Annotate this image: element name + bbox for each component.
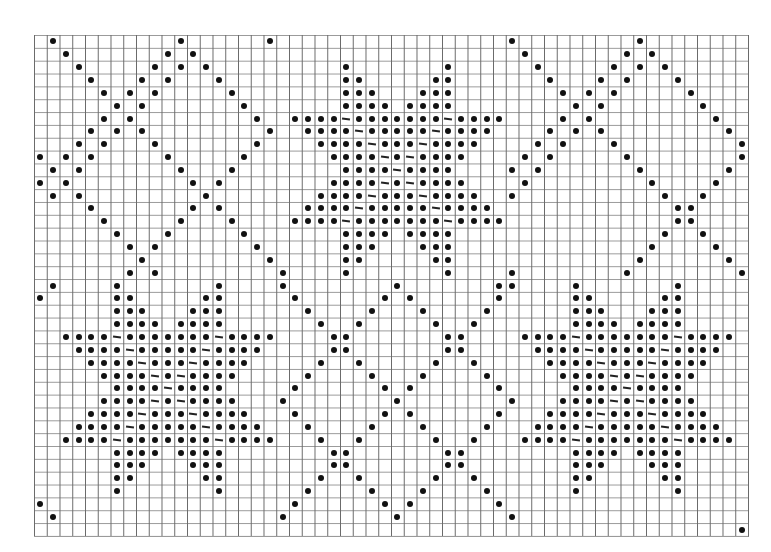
star-dot-icon (611, 437, 617, 443)
star-dot-icon (700, 437, 706, 443)
star-dot-icon (343, 257, 349, 263)
star-dot-icon (573, 283, 579, 289)
star-dot-icon (203, 295, 209, 301)
lattice-dot-icon (509, 514, 515, 520)
star-dash-icon (393, 168, 401, 171)
star-dot-icon (547, 334, 553, 340)
star-dash-icon (572, 438, 580, 441)
lattice-dot-icon (101, 218, 107, 224)
lattice-dot-icon (484, 488, 490, 494)
lattice-dot-icon (560, 141, 566, 147)
star-dot-icon (318, 205, 324, 211)
lattice-dot-icon (547, 77, 553, 83)
star-dot-icon (535, 424, 541, 430)
lattice-dot-icon (343, 450, 349, 456)
lattice-dot-icon (369, 308, 375, 314)
star-dot-icon (662, 308, 668, 314)
lattice-dot-icon (369, 488, 375, 494)
star-dot-icon (649, 334, 655, 340)
lattice-dot-icon (165, 77, 171, 83)
star-dot-icon (484, 116, 490, 122)
star-dot-icon (649, 308, 655, 314)
star-dot-icon (675, 360, 681, 366)
star-dot-icon (216, 424, 222, 430)
star-dot-icon (114, 347, 120, 353)
lattice-dot-icon (649, 180, 655, 186)
star-dot-icon (675, 398, 681, 404)
lattice-dot-icon (445, 450, 451, 456)
star-dot-icon (305, 218, 311, 224)
star-dot-icon (662, 411, 668, 417)
star-dot-icon (216, 321, 222, 327)
star-dot-icon (343, 180, 349, 186)
star-dash-icon (381, 156, 389, 159)
lattice-dot-icon (624, 77, 630, 83)
star-dot-icon (382, 103, 388, 109)
star-dot-icon (356, 154, 362, 160)
star-dot-icon (203, 321, 209, 327)
lattice-dot-icon (433, 360, 439, 366)
star-dot-icon (420, 116, 426, 122)
lattice-dot-icon (394, 398, 400, 404)
lattice-dot-icon (496, 295, 502, 301)
star-dash-icon (164, 387, 172, 390)
star-dot-icon (547, 360, 553, 366)
star-dot-icon (127, 334, 133, 340)
star-dot-icon (152, 411, 158, 417)
star-dash-icon (674, 438, 682, 441)
lattice-dot-icon (76, 64, 82, 70)
star-dot-icon (76, 334, 82, 340)
star-dot-icon (369, 90, 375, 96)
star-dot-icon (127, 295, 133, 301)
star-dot-icon (420, 154, 426, 160)
star-dot-icon (216, 283, 222, 289)
lattice-dot-icon (152, 90, 158, 96)
star-dot-icon (229, 437, 235, 443)
lattice-dot-icon (420, 488, 426, 494)
star-dot-icon (165, 373, 171, 379)
star-dash-icon (419, 143, 427, 146)
lattice-dot-icon (241, 154, 247, 160)
star-dash-icon (597, 413, 605, 416)
star-dot-icon (662, 321, 668, 327)
star-dot-icon (675, 373, 681, 379)
lattice-dot-icon (280, 270, 286, 276)
star-dash-icon (151, 400, 159, 403)
lattice-dot-icon (88, 154, 94, 160)
lattice-dot-icon (649, 244, 655, 250)
star-dash-icon (126, 425, 134, 428)
lattice-dot-icon (139, 257, 145, 263)
star-dot-icon (586, 475, 592, 481)
star-dot-icon (700, 347, 706, 353)
lattice-dot-icon (356, 360, 362, 366)
star-dot-icon (496, 116, 502, 122)
lattice-dot-icon (318, 360, 324, 366)
star-dot-icon (522, 437, 528, 443)
star-dot-icon (127, 411, 133, 417)
star-dot-icon (458, 218, 464, 224)
lattice-dot-icon (229, 167, 235, 173)
lattice-dot-icon (165, 51, 171, 57)
star-dot-icon (420, 244, 426, 250)
lattice-dot-icon (637, 257, 643, 263)
star-dot-icon (598, 373, 604, 379)
star-dot-icon (433, 167, 439, 173)
star-dot-icon (356, 193, 362, 199)
star-dot-icon (586, 437, 592, 443)
lattice-dot-icon (471, 437, 477, 443)
lattice-dot-icon (394, 283, 400, 289)
star-dot-icon (445, 103, 451, 109)
star-dot-icon (535, 347, 541, 353)
lattice-dot-icon (471, 360, 477, 366)
star-dash-icon (597, 361, 605, 364)
star-dot-icon (343, 77, 349, 83)
lattice-dot-icon (241, 103, 247, 109)
star-dot-icon (445, 167, 451, 173)
lattice-dot-icon (76, 141, 82, 147)
star-dot-icon (560, 360, 566, 366)
star-dot-icon (229, 398, 235, 404)
star-dot-icon (560, 398, 566, 404)
star-dot-icon (216, 360, 222, 366)
star-dot-icon (662, 437, 668, 443)
star-dot-icon (471, 141, 477, 147)
